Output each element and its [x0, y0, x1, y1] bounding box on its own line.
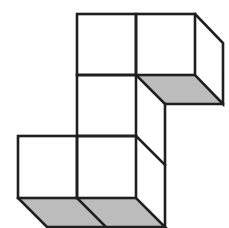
- cube-diagram-svg: [0, 0, 229, 228]
- bottom-middle-cube-front: [77, 136, 136, 198]
- top-left-cube-front: [77, 14, 136, 75]
- bottom-middle-cube-top-diagonal: [136, 136, 165, 165]
- cube-diagram: [0, 0, 229, 228]
- middle-cube-front: [77, 75, 136, 136]
- bottom-left-cube-front: [18, 136, 77, 198]
- top-right-cube-front: [136, 14, 195, 75]
